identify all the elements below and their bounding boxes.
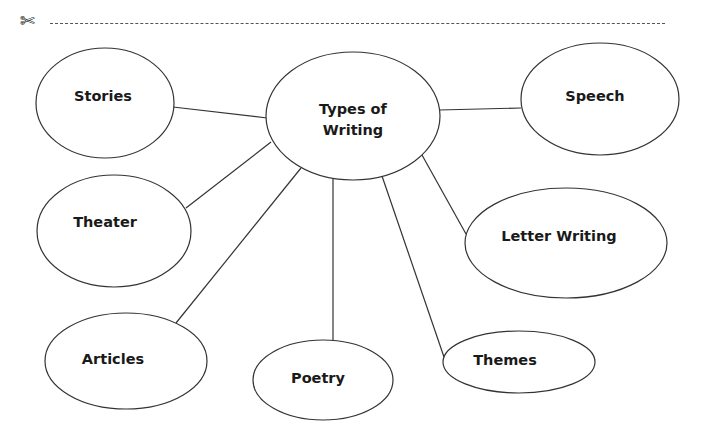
connector-articles bbox=[176, 168, 301, 323]
label-stories: Stories bbox=[74, 88, 132, 104]
node-theater bbox=[37, 175, 191, 287]
connector-theater bbox=[186, 142, 271, 208]
connector-stories bbox=[173, 107, 267, 118]
label-theater: Theater bbox=[73, 214, 138, 230]
connector-themes bbox=[382, 176, 444, 357]
label-themes: Themes bbox=[473, 352, 537, 368]
mind-map-diagram: Types of Writing Stories Speech Theater … bbox=[0, 0, 702, 438]
connector-speech bbox=[439, 108, 521, 110]
label-speech: Speech bbox=[565, 88, 624, 104]
connector-letter-writing bbox=[422, 155, 466, 234]
label-poetry: Poetry bbox=[291, 370, 346, 386]
center-label-line1: Types of bbox=[319, 101, 387, 117]
center-label-line2: Writing bbox=[323, 122, 383, 138]
label-articles: Articles bbox=[82, 351, 144, 367]
label-letter-writing: Letter Writing bbox=[501, 228, 616, 244]
